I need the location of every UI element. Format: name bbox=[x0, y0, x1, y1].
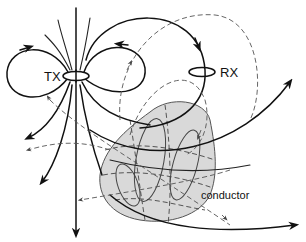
rx-label: RX bbox=[220, 65, 238, 80]
tx-label: TX bbox=[44, 69, 61, 84]
conductor-body bbox=[100, 102, 215, 224]
receiver-coil bbox=[189, 68, 215, 77]
conductor-label: conductor bbox=[201, 189, 250, 201]
em-induction-diagram: TX RX conductor bbox=[0, 0, 306, 242]
